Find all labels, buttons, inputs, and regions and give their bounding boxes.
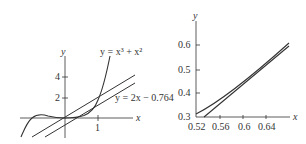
- left-parallel-line: [32, 75, 135, 137]
- right-x-tick-label: 0.52: [188, 121, 206, 132]
- right-x-axis-label: x: [292, 111, 298, 122]
- right-cubic-curve: [196, 43, 289, 114]
- left-y-tick-label-2: 2: [55, 92, 60, 103]
- left-y-tick-label-4: 4: [55, 71, 60, 82]
- right-y-tick-label: 0.6: [178, 39, 191, 50]
- right-x-tick-label: 0.64: [258, 121, 276, 132]
- figure: y x 4 2 1 y = x³ + x² y = 2x − 0.764 y x…: [0, 0, 306, 144]
- left-y-axis-label: y: [60, 46, 66, 57]
- right-y-axis-label: y: [192, 10, 198, 21]
- left-x-axis-label: x: [135, 112, 141, 123]
- right-y-tick-label: 0.5: [178, 64, 191, 75]
- right-x-tick-label: 0.56: [212, 121, 230, 132]
- right-y-tick-label: 0.4: [178, 87, 191, 98]
- right-chart: [196, 21, 290, 119]
- right-tangent-line: [204, 46, 289, 117]
- right-x-tick-label: 0.6: [238, 121, 251, 132]
- left-x-tick-label-1: 1: [95, 122, 100, 133]
- left-curve-label: y = x³ + x²: [100, 46, 142, 57]
- left-line-label: y = 2x − 0.764: [115, 92, 174, 103]
